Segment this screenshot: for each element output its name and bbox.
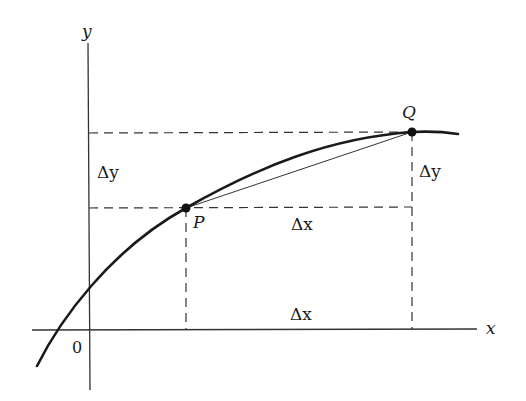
point-p-label: P: [192, 212, 205, 232]
delta-y-left-label: Δy: [97, 162, 119, 182]
secant-diagram: y x 0 P Q Δy Δy Δx Δx: [0, 0, 526, 401]
delta-y-right-label: Δy: [419, 161, 441, 181]
q-horizontal-dashed-line: [89, 132, 412, 133]
delta-x-middle-label: Δx: [291, 214, 313, 234]
secant-line-pq: [186, 132, 412, 208]
y-axis: [88, 43, 90, 390]
origin-label: 0: [72, 338, 82, 357]
y-axis-label: y: [81, 21, 92, 41]
p-horizontal-dashed-line: [89, 207, 412, 208]
x-axis: [32, 329, 477, 330]
point-p: [182, 204, 191, 213]
point-q-label: Q: [402, 102, 416, 122]
x-axis-label: x: [486, 318, 496, 338]
point-q: [408, 128, 417, 137]
delta-x-bottom-label: Δx: [290, 304, 312, 324]
